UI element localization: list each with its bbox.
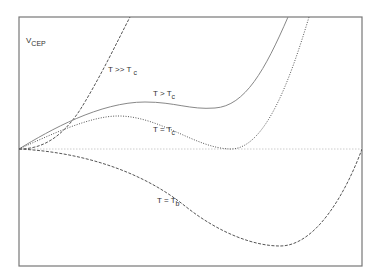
label-t-much-greater-tc: T >> T c xyxy=(108,66,137,76)
curve-series-3 xyxy=(19,149,362,246)
y-axis-label: VCEP xyxy=(26,37,46,47)
y-label-sub: CEP xyxy=(31,40,45,47)
label-sub: c xyxy=(133,69,137,76)
label-main: T = T xyxy=(157,196,176,205)
label-sub: b xyxy=(176,200,180,207)
label-main: T >> T xyxy=(108,65,131,74)
label-t-equals-tc: T = Tc xyxy=(153,126,175,136)
plot-frame xyxy=(19,17,362,266)
label-main: T > T xyxy=(153,89,172,98)
label-t-equals-tb: T = Tb xyxy=(157,197,180,207)
label-sub: c xyxy=(172,93,176,100)
label-t-greater-tc: T > Tc xyxy=(153,90,175,100)
chart-plot xyxy=(0,0,381,277)
label-sub: c xyxy=(172,129,176,136)
label-main: T = T xyxy=(153,125,172,134)
